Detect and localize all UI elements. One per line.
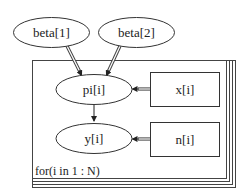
node-label: pi[i] [83, 82, 105, 97]
node-n[interactable]: n[i] [151, 123, 220, 157]
node-x[interactable]: x[i] [151, 73, 220, 107]
node-pi[interactable]: pi[i] [56, 75, 132, 105]
node-beta-2[interactable]: beta[2] [99, 18, 175, 48]
node-label: x[i] [176, 82, 195, 97]
plate-label: for(i in 1 : N) [35, 164, 100, 178]
node-y[interactable]: y[i] [56, 124, 132, 154]
node-beta-1[interactable]: beta[1] [14, 18, 90, 48]
node-label: beta[2] [118, 25, 155, 40]
node-label: beta[1] [33, 25, 70, 40]
node-label: n[i] [176, 132, 195, 147]
doodle-diagram: for(i in 1 : N) beta[1] beta[2] [0, 0, 250, 196]
node-label: y[i] [85, 131, 104, 146]
